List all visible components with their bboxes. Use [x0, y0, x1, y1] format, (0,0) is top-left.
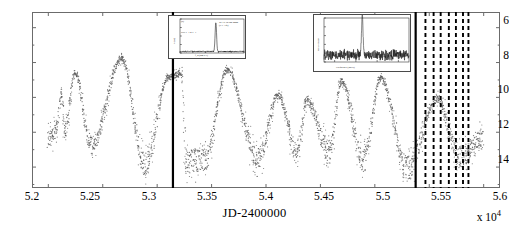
inset-right-trace — [324, 15, 409, 61]
inset-left-source-note: IRAS 19190-2000 (V1 Aql) — [219, 21, 238, 27]
plot-canvas — [0, 0, 509, 232]
inset-left-x-label: f_0 (km s-1) — [195, 54, 208, 57]
inset-left-transition-note: SiO J=1-0 v=1 — [181, 31, 196, 34]
inset-right-y-label: Flux density — [317, 38, 320, 51]
spectrum-inset-right-canvas — [314, 15, 411, 72]
axis-ticks — [32, 12, 500, 188]
spectrum-inset-left: (a) SiO J=1-0 v=1 IRAS 19190-2000 (V1 Aq… — [168, 15, 246, 59]
inset-right-x-label: Frequency (MHz) — [336, 66, 355, 69]
spectrum-inset-right: Frequency (MHz) Flux density — [313, 14, 411, 72]
figure-root: Visual magnitude 6 8 10 12 14 5.2 5.25 5… — [0, 0, 509, 232]
inset-left-y-label: S (Jy) — [173, 38, 176, 44]
data-points — [47, 53, 485, 185]
inset-left-corner-label: (a) — [181, 20, 184, 23]
